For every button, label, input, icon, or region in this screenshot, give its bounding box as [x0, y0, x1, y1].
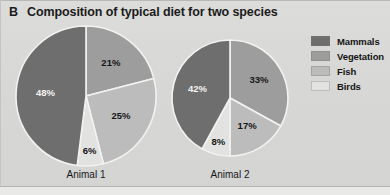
pie-axis-label-2: Animal 2 [190, 169, 270, 180]
pie-slice-label-birds: 6% [83, 145, 97, 156]
panel-title-row: B Composition of typical diet for two sp… [9, 5, 278, 19]
legend-label: Fish [337, 66, 356, 77]
legend-swatch-icon-mammals [311, 36, 330, 46]
pie-slice-label-fish: 17% [238, 120, 258, 131]
figure-panel-b: B Composition of typical diet for two sp… [0, 0, 390, 195]
legend-swatch-icon-birds [311, 81, 330, 91]
page-title: Composition of typical diet for two spec… [27, 5, 278, 19]
pie-slice-label-fish: 25% [111, 110, 131, 121]
pie-axis-label-1: Animal 1 [46, 169, 126, 180]
panel-letter: B [9, 5, 18, 19]
legend-label: Birds [337, 81, 361, 92]
legend-item-vegetation: Vegetation [311, 51, 384, 61]
pie-slice-label-vegetation: 21% [101, 57, 121, 68]
legend-label: Vegetation [337, 51, 384, 62]
legend-swatch-icon-vegetation [311, 51, 330, 61]
pie-svg-1: 21%25%6%48% [12, 22, 160, 170]
legend-item-birds: Birds [311, 81, 384, 91]
chart-legend: MammalsVegetationFishBirds [311, 36, 384, 91]
legend-item-fish: Fish [311, 66, 384, 76]
panel-bottom-strip [0, 187, 390, 195]
pie-chart-1: 21%25%6%48% [12, 22, 160, 170]
pie-chart-2: 33%17%8%42% [168, 36, 292, 160]
legend-item-mammals: Mammals [311, 36, 384, 46]
pie-slice-label-mammals: 42% [188, 83, 208, 94]
pie-slice-label-birds: 8% [212, 136, 226, 147]
pie-slice-label-mammals: 48% [36, 87, 56, 98]
legend-label: Mammals [337, 36, 380, 47]
pie-svg-2: 33%17%8%42% [168, 36, 292, 160]
panel-left-border [0, 0, 1, 187]
legend-swatch-icon-fish [311, 66, 330, 76]
panel-top-border [0, 0, 390, 1]
pie-slice-label-vegetation: 33% [249, 74, 269, 85]
